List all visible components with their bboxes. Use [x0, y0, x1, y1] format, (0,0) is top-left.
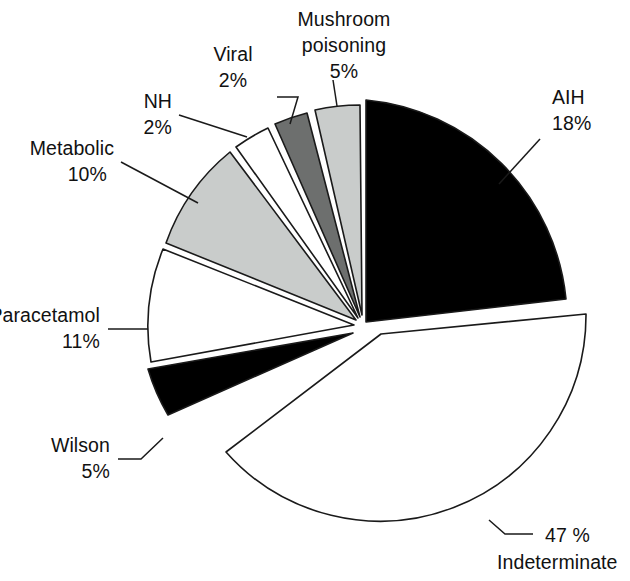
label-mushroom-poisoning-name: Mushroom	[298, 8, 391, 30]
label-viral-value: 2%	[219, 69, 247, 91]
label-wilson-value: 5%	[82, 460, 110, 482]
label-paracetamol-value: 11%	[62, 330, 100, 352]
label-wilson-name: Wilson	[51, 434, 110, 456]
label-metabolic-value: 10%	[68, 163, 107, 185]
label-aih-name: AIH	[552, 86, 585, 108]
label-mushroom-poisoning-name-line2: poisoning	[302, 34, 386, 56]
pie-chart-svg: AIH 18% 47 % Indeterminate Wilson 5% Par…	[0, 0, 630, 581]
label-nh-name: NH	[144, 90, 172, 112]
label-viral-name: Viral	[213, 43, 252, 65]
label-mushroom-poisoning-value: 5%	[330, 60, 358, 82]
pie-chart-figure: AIH 18% 47 % Indeterminate Wilson 5% Par…	[0, 0, 630, 581]
label-paracetamol-name: Paracetamol	[0, 304, 100, 326]
label-indeterminate-name: Indeterminate	[497, 551, 618, 573]
label-aih-value: 18%	[552, 112, 591, 134]
label-nh-value: 2%	[144, 116, 172, 138]
label-indeterminate-value: 47 %	[545, 524, 590, 546]
label-metabolic-name: Metabolic	[30, 137, 115, 159]
